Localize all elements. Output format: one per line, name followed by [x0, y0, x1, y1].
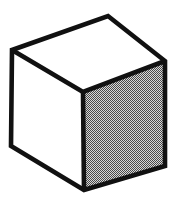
cube-interior-vertical-edge: [83, 92, 84, 190]
cube-figure: Isometric cube line drawing A three-dime…: [0, 0, 185, 214]
cube-drawing: Isometric cube line drawing A three-dime…: [0, 0, 185, 214]
